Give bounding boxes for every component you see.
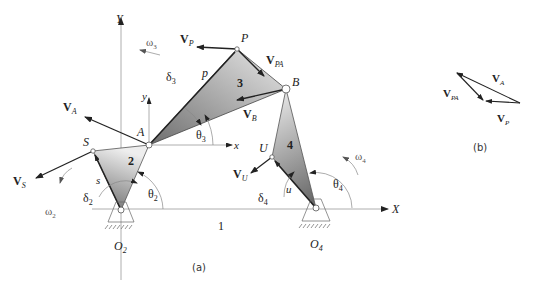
label-omega3: ω3: [146, 36, 157, 51]
label-omega4: ω4: [355, 150, 366, 165]
label-delta4: δ4: [258, 191, 268, 207]
label-delta2: δ2: [83, 191, 93, 207]
label-U: U: [259, 141, 269, 155]
omega2-arrow: [60, 168, 72, 183]
label-theta4: θ4: [333, 177, 343, 193]
label-VPA: VPA: [266, 53, 284, 69]
label-S: S: [83, 135, 89, 149]
hatch-O2: [105, 225, 132, 229]
poly-VP-arrow: [486, 101, 520, 103]
label-B: B: [292, 75, 300, 89]
label-link-3: 3: [237, 76, 243, 90]
label-A: A: [136, 125, 145, 139]
label-VA: VA: [63, 100, 77, 116]
poly-label-VP: VP: [497, 112, 510, 127]
pin-P: [235, 47, 239, 51]
caption-b: (b): [473, 142, 487, 153]
pin-A: [146, 142, 152, 148]
label-VP: VP: [180, 32, 194, 48]
label-O2: O2: [114, 239, 127, 255]
label-p: p: [201, 66, 208, 80]
fourbar-velocity-diagram: Y X y x 1 A B P S U O2 O4 2 3 4 p s u θ2…: [0, 0, 537, 287]
label-y: y: [141, 90, 147, 102]
pin-U: [270, 155, 274, 159]
label-P: P: [240, 31, 249, 45]
label-theta3: θ3: [196, 128, 206, 144]
label-theta2: θ2: [148, 187, 158, 203]
omega3-arrow: [140, 50, 160, 55]
poly-label-VPA: VPA: [443, 87, 459, 102]
poly-VA-arrow: [457, 73, 520, 103]
label-VS: VS: [13, 174, 26, 190]
theta4-arc: [310, 172, 352, 208]
label-s: s: [96, 174, 100, 186]
link-4-shape: [272, 89, 316, 208]
label-VU: VU: [233, 167, 249, 183]
label-u: u: [286, 183, 292, 195]
pin-O2: [118, 207, 124, 213]
caption-a: (a): [192, 262, 206, 273]
label-x: x: [233, 139, 239, 151]
label-Y: Y: [116, 12, 124, 26]
label-link-4: 4: [287, 138, 293, 152]
label-ground-1: 1: [218, 219, 224, 233]
label-VB: VB: [243, 107, 257, 123]
VP-arrow: [197, 47, 237, 49]
pin-S: [91, 149, 95, 153]
poly-VPA-arrow: [457, 73, 483, 100]
angle-arcs: [60, 50, 358, 209]
label-delta3: δ3: [166, 70, 176, 86]
pin-O4: [313, 205, 319, 211]
hatch-O4: [299, 224, 330, 228]
pin-B: [282, 85, 290, 93]
poly-label-VA: VA: [492, 72, 505, 87]
label-omega2: ω2: [45, 205, 56, 220]
label-link-2: 2: [128, 154, 134, 168]
label-X: X: [391, 202, 400, 216]
velocity-polygon-b: VA VPA VP: [443, 72, 520, 127]
VU-arrow: [251, 157, 272, 173]
link-2-shape: [93, 145, 149, 210]
label-O4: O4: [310, 237, 323, 253]
